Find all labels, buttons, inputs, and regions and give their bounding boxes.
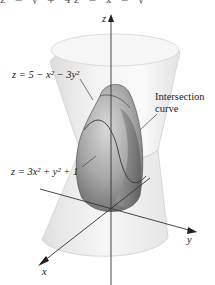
paraboloid-intersection-figure: z = y + 4z = x = y: [0, 0, 215, 285]
intersection-label-line1: Intersection: [155, 91, 205, 102]
intersection-label-line2: curve: [155, 103, 178, 114]
x-axis-label: x: [42, 266, 47, 277]
lower-surface-equation: z = 3x² + y² + 1: [11, 166, 78, 177]
cropped-equation-text: z = y + 4z = x = y: [0, 0, 215, 4]
z-axis-label: z: [102, 13, 106, 24]
surface-plot: [0, 0, 215, 285]
y-axis-arrow-icon: [187, 227, 197, 234]
x-axis-arrow-icon: [38, 256, 49, 266]
z-axis-arrow-icon: [108, 14, 114, 22]
upper-surface-equation: z = 5 − x² − 3y²: [12, 69, 79, 80]
y-axis-label: y: [187, 234, 192, 245]
